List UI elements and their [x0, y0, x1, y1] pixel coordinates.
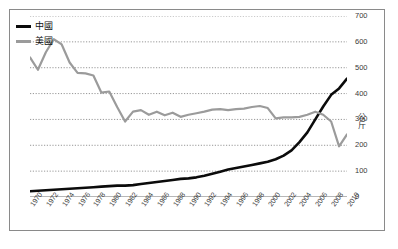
plot-area [30, 16, 347, 197]
chart-figure: 0100200300400500600700 公斤 19701972197419… [0, 0, 398, 249]
y-tick-label: 100 [355, 166, 368, 175]
legend-swatch-china-icon [16, 25, 31, 28]
y-axis-title: 公斤 [356, 112, 368, 130]
legend-label-china: 中國 [35, 21, 53, 32]
y-tick-label: 200 [355, 140, 368, 149]
legend-item-usa: 美國 [16, 35, 53, 48]
chart-legend: 中國 美國 [16, 20, 53, 50]
line-chart-svg [30, 16, 347, 197]
legend-swatch-usa-icon [16, 40, 31, 43]
y-tick-label: 700 [355, 11, 368, 20]
y-tick-label: 600 [355, 37, 368, 46]
y-tick-label: 400 [355, 89, 368, 98]
legend-item-china: 中國 [16, 20, 53, 33]
legend-label-usa: 美國 [35, 36, 53, 47]
y-tick-label: 500 [355, 63, 368, 72]
